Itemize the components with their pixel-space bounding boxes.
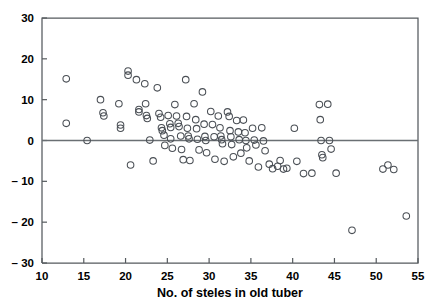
y-tick-label: 20 [21,53,34,65]
figure-background [0,0,436,305]
scatter-plot-figure: 101520253035404550553020100– 10– 20– 30 … [0,0,436,305]
x-axis-label: No. of steles in old tuber [157,286,303,300]
x-tick-label: 10 [36,270,49,282]
x-tick-label: 40 [286,270,299,282]
y-tick-label: 0 [28,135,34,147]
x-tick-label: 55 [412,270,425,282]
y-tick-label: – 20 [12,216,34,228]
x-tick-label: 45 [328,270,341,282]
y-tick-label: 10 [21,94,34,106]
x-tick-label: 30 [203,270,216,282]
x-tick-label: 25 [161,270,174,282]
x-tick-label: 35 [244,270,257,282]
x-tick-label: 50 [370,270,383,282]
y-tick-label: – 10 [12,175,34,187]
y-tick-label: 30 [21,12,34,24]
y-tick-label: – 30 [12,257,34,269]
x-tick-label: 15 [77,270,90,282]
x-tick-label: 20 [119,270,132,282]
